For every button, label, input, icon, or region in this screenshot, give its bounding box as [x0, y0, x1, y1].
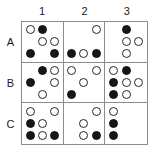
- open-dot: [50, 37, 59, 46]
- matrix-cell-b3: [105, 63, 147, 104]
- dot-slot: [107, 48, 120, 60]
- filled-dot: [26, 119, 35, 128]
- dot-slot: [78, 88, 90, 100]
- open-dot: [134, 37, 143, 46]
- dot-subgrid-a2: [66, 24, 103, 60]
- dot-slot: [120, 65, 133, 77]
- dot-subgrid-b1: [24, 65, 61, 101]
- matrix-cell-b1: [22, 63, 64, 104]
- open-dot: [122, 37, 131, 46]
- filled-dot: [109, 119, 118, 128]
- dot-slot: [66, 36, 78, 48]
- dot-slot: [107, 77, 120, 89]
- dot-slot: [90, 77, 102, 89]
- filled-dot: [122, 66, 131, 75]
- matrix-cell-a2: [64, 22, 106, 63]
- filled-dot: [26, 78, 35, 87]
- filled-dot: [26, 131, 35, 140]
- dot-slot: [90, 36, 102, 48]
- dot-subgrid-a1: [24, 24, 61, 60]
- dot-slot: [66, 24, 78, 36]
- filled-dot: [50, 131, 59, 140]
- dot-slot: [48, 36, 60, 48]
- dot-slot: [78, 130, 90, 142]
- dot-slot: [66, 77, 78, 89]
- open-dot: [67, 66, 76, 75]
- open-dot: [38, 131, 47, 140]
- dot-slot: [48, 130, 60, 142]
- dot-slot: [120, 48, 133, 60]
- dot-slot: [132, 118, 145, 130]
- dot-slot: [66, 48, 78, 60]
- dot-matrix-figure: 1 2 3 A B C: [0, 0, 155, 152]
- open-dot: [50, 78, 59, 87]
- filled-dot: [26, 49, 35, 58]
- dot-slot: [120, 24, 133, 36]
- dot-slot: [24, 36, 36, 48]
- filled-dot: [92, 131, 101, 140]
- dot-slot: [132, 77, 145, 89]
- dot-slot: [66, 88, 78, 100]
- dot-slot: [48, 105, 60, 117]
- dot-slot: [78, 105, 90, 117]
- dot-subgrid-b3: [107, 65, 145, 101]
- open-dot: [134, 78, 143, 87]
- dot-slot: [107, 118, 120, 130]
- open-dot: [122, 78, 131, 87]
- filled-dot: [38, 66, 47, 75]
- dot-slot: [90, 88, 102, 100]
- matrix-cell-c3: [105, 103, 147, 144]
- row-header-c: C: [2, 104, 19, 145]
- filled-dot: [92, 49, 101, 58]
- open-dot: [38, 119, 47, 128]
- dot-subgrid-b2: [66, 65, 103, 101]
- dot-slot: [48, 65, 60, 77]
- matrix-cell-b2: [64, 63, 106, 104]
- dot-slot: [107, 105, 120, 117]
- dot-slot: [48, 88, 60, 100]
- column-header-row: 1 2 3: [21, 3, 148, 19]
- dot-slot: [24, 48, 36, 60]
- column-header-1: 1: [21, 3, 63, 19]
- dot-slot: [132, 24, 145, 36]
- dot-slot: [36, 36, 48, 48]
- open-dot: [122, 49, 131, 58]
- dot-slot: [132, 105, 145, 117]
- dot-slot: [66, 65, 78, 77]
- dot-slot: [107, 24, 120, 36]
- open-dot: [26, 25, 35, 34]
- dot-slot: [36, 65, 48, 77]
- dot-slot: [48, 48, 60, 60]
- dot-slot: [120, 88, 133, 100]
- open-dot: [92, 66, 101, 75]
- dot-slot: [107, 65, 120, 77]
- dot-slot: [78, 118, 90, 130]
- filled-dot: [109, 78, 118, 87]
- dot-slot: [90, 118, 102, 130]
- row-header-column: A B C: [2, 21, 19, 145]
- dot-slot: [36, 130, 48, 142]
- dot-slot: [48, 24, 60, 36]
- dot-slot: [24, 130, 36, 142]
- dot-slot: [120, 130, 133, 142]
- dot-slot: [132, 36, 145, 48]
- dot-slot: [120, 118, 133, 130]
- dot-slot: [36, 48, 48, 60]
- open-dot: [79, 49, 88, 58]
- dot-slot: [78, 65, 90, 77]
- dot-slot: [24, 24, 36, 36]
- dot-slot: [132, 130, 145, 142]
- column-header-3: 3: [106, 3, 148, 19]
- row-header-a: A: [2, 21, 19, 62]
- open-dot: [92, 25, 101, 34]
- open-dot: [50, 107, 59, 116]
- open-dot: [109, 66, 118, 75]
- dot-slot: [107, 130, 120, 142]
- dot-slot: [120, 77, 133, 89]
- dot-slot: [66, 118, 78, 130]
- dot-subgrid-c2: [66, 105, 103, 142]
- dot-slot: [48, 77, 60, 89]
- dot-slot: [78, 24, 90, 36]
- dot-slot: [132, 65, 145, 77]
- dot-slot: [24, 88, 36, 100]
